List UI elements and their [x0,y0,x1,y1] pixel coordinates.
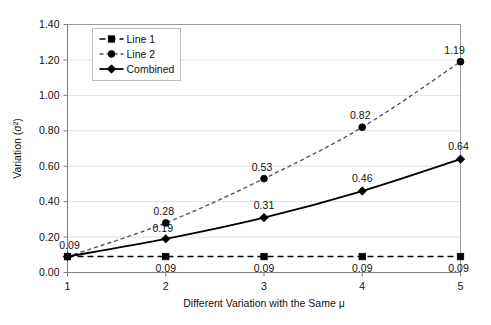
y-tick-label: 1.40 [39,18,60,30]
y-axis-title: Variation (σ²) [11,118,23,179]
data-point-marker [163,253,169,259]
series-line [68,62,461,257]
legend-label: Line 2 [127,48,156,60]
data-point-marker [457,253,463,259]
data-point-marker [108,51,115,58]
x-tick-label: 5 [458,280,464,292]
y-tick-label: 1.00 [39,89,60,101]
data-point-label: 0.64 [448,140,469,152]
chart-legend: Line 1Line 2Combined [93,29,181,81]
data-point-label: 1.19 [444,44,465,56]
y-tick-label: 0.20 [39,231,60,243]
x-axis-tick-labels: 12345 [65,280,464,292]
x-tick-label: 2 [163,280,169,292]
data-point-marker [261,175,268,182]
data-point-label: 0.09 [352,262,373,274]
data-point-marker [260,213,268,221]
y-axis-tick-labels: 0.000.200.400.600.801.001.201.40 [39,18,60,278]
data-point-label: 0.09 [156,262,177,274]
data-point-marker [162,235,170,243]
series-line-1 [64,253,463,259]
line-chart: 0.000.200.400.600.801.001.201.40 12345 0… [0,0,491,325]
chart-container: 0.000.200.400.600.801.001.201.40 12345 0… [0,0,491,325]
series-line-2 [64,58,464,260]
data-point-marker [456,155,464,163]
data-point-label: 0.82 [350,109,371,121]
data-point-marker [359,124,366,131]
data-point-label: 0.46 [352,172,373,184]
y-tick-label: 0.80 [39,124,60,136]
data-point-marker [457,58,464,65]
x-axis-title: Different Variation with the Same μ [183,297,345,309]
x-tick-label: 1 [65,280,71,292]
legend-label: Line 1 [127,33,156,45]
data-point-marker [358,187,366,195]
data-point-label: 0.31 [254,199,275,211]
x-tick-label: 3 [261,280,267,292]
data-point-label: 0.09 [59,239,80,251]
data-point-label: 0.09 [254,262,275,274]
data-point-label: 0.28 [154,205,175,217]
data-point-label: 0.19 [153,222,174,234]
y-tick-label: 0.60 [39,160,60,172]
data-point-marker [359,253,365,259]
data-point-marker [261,253,267,259]
legend-label: Combined [127,63,175,75]
data-series-group [63,58,464,260]
data-point-label: 0.09 [448,262,469,274]
y-tick-label: 0.00 [39,266,60,278]
y-tick-label: 0.40 [39,195,60,207]
data-point-label: 0.53 [252,161,273,173]
y-axis-ticks [64,25,68,273]
y-tick-label: 1.20 [39,54,60,66]
data-point-marker [108,36,114,42]
x-tick-label: 4 [359,280,365,292]
